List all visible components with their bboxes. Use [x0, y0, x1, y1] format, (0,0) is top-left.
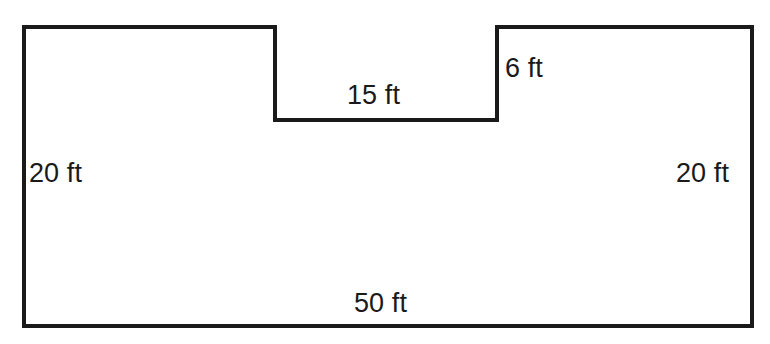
- dimension-label-notch-width: 15 ft: [347, 82, 400, 109]
- figure-canvas: 20 ft 20 ft 15 ft 6 ft 50 ft: [0, 0, 770, 344]
- dimension-label-left-height: 20 ft: [29, 160, 82, 187]
- dimension-label-base-width: 50 ft: [354, 290, 407, 317]
- dimension-label-right-height: 20 ft: [676, 160, 729, 187]
- dimension-label-notch-depth: 6 ft: [505, 55, 543, 82]
